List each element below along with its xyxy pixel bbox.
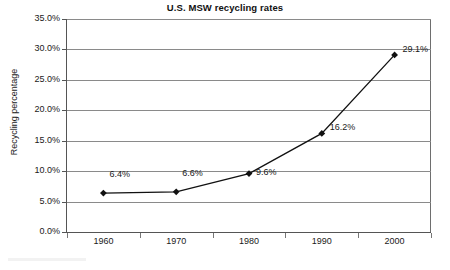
x-axis-tick-label: 1960 — [73, 236, 133, 246]
data-point-label: 6.4% — [109, 169, 130, 179]
data-point-label: 16.2% — [330, 122, 356, 132]
data-series-line — [67, 19, 431, 232]
x-axis-tick — [67, 233, 68, 238]
data-point-marker[interactable] — [246, 170, 253, 177]
x-axis-tick — [358, 233, 359, 238]
data-point-label: 6.6% — [182, 168, 203, 178]
y-axis-tick-label: 20.0% — [12, 104, 60, 114]
x-axis-tick — [431, 233, 432, 238]
y-axis-tick-label: 25.0% — [12, 74, 60, 84]
y-axis-tick-label: 10.0% — [12, 165, 60, 175]
y-axis-tick-label: 35.0% — [12, 13, 60, 23]
data-point-marker[interactable] — [173, 188, 180, 195]
x-axis-tick — [213, 233, 214, 238]
data-point-label: 29.1% — [403, 44, 429, 54]
data-point-label: 9.6% — [256, 167, 277, 177]
chart-canvas: U.S. MSW recycling rates Recycling perce… — [0, 0, 450, 270]
x-axis-tick-label: 1980 — [219, 236, 279, 246]
x-axis-tick — [140, 233, 141, 238]
x-axis-tick-label: 2000 — [365, 236, 425, 246]
y-axis-tick-label: 0.0% — [12, 226, 60, 236]
x-axis-tick-label: 1970 — [146, 236, 206, 246]
y-axis-tick-label: 5.0% — [12, 196, 60, 206]
y-axis-tick-label: 30.0% — [12, 43, 60, 53]
chart-title: U.S. MSW recycling rates — [0, 2, 450, 13]
data-point-marker[interactable] — [100, 190, 107, 197]
x-axis-line — [66, 232, 431, 233]
y-axis-tick-label: 15.0% — [12, 135, 60, 145]
x-axis-tick-label: 1990 — [292, 236, 352, 246]
scan-artifact — [8, 258, 86, 261]
x-axis-tick — [285, 233, 286, 238]
